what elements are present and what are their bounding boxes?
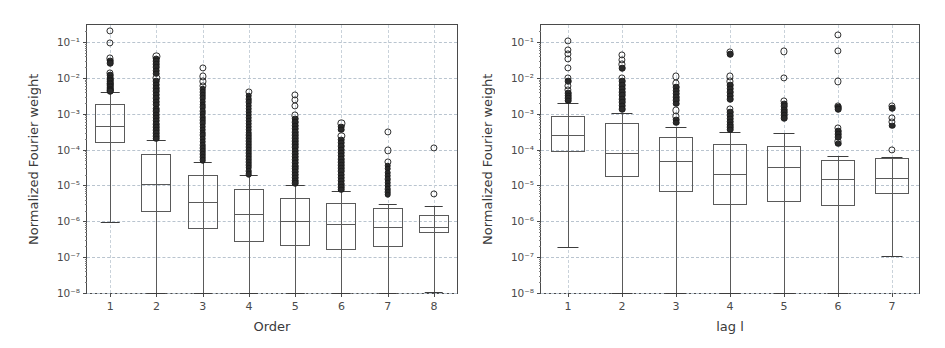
y-tick-minor	[85, 265, 88, 266]
y-tick-minor	[539, 139, 542, 140]
boxplot-box	[875, 158, 909, 194]
y-tick-minor	[85, 151, 88, 152]
boxplot-median	[821, 179, 855, 180]
y-tick-label: 10⁻⁷	[57, 252, 80, 263]
y-tick-minor	[85, 115, 88, 116]
boxplot-median	[234, 214, 264, 215]
y-tick-minor	[539, 128, 542, 129]
boxplot-outlier	[619, 106, 626, 113]
y-tick-minor	[539, 81, 542, 82]
y-tick-label: 10⁻⁶	[57, 216, 80, 227]
y-tick-minor	[539, 211, 542, 212]
boxplot-outlier	[834, 78, 841, 85]
y-tick-minor	[539, 61, 542, 62]
y-tick-minor	[539, 259, 542, 260]
y-tick-minor	[85, 225, 88, 226]
x-tick-label: 6	[835, 301, 842, 312]
gridline-horizontal	[87, 150, 457, 151]
y-tick-minor	[539, 97, 542, 98]
boxplot-cap-lower	[286, 293, 305, 294]
boxplot-outlier	[107, 39, 114, 46]
boxplot-outlier	[780, 48, 787, 55]
y-tick-minor	[85, 240, 88, 241]
y-tick-minor	[539, 46, 542, 47]
y-tick-minor	[539, 164, 542, 165]
x-tick-label: 2	[619, 301, 626, 312]
y-tick-minor	[539, 44, 542, 45]
plot-area-right: lag l 10⁻¹10⁻²10⁻³10⁻⁴10⁻⁵10⁻⁶10⁻⁷10⁻⁸12…	[540, 24, 920, 294]
boxplot-cap-lower	[665, 293, 686, 294]
boxplot-cap-upper	[611, 113, 632, 114]
y-tick-label: 10⁻¹	[511, 37, 534, 48]
y-tick-minor	[85, 229, 88, 230]
boxplot-cap-lower	[773, 293, 794, 294]
x-tick-label: 6	[338, 301, 345, 312]
y-tick-label: 10⁻⁴	[511, 144, 534, 155]
y-tick-minor	[539, 155, 542, 156]
boxplot-outlier	[246, 171, 253, 178]
y-tick-minor	[85, 164, 88, 165]
y-tick-minor	[539, 153, 542, 154]
y-tick-minor	[85, 83, 88, 84]
x-tick-label: 1	[107, 301, 114, 312]
x-tick-mark	[892, 293, 893, 297]
x-axis-label-left: Order	[254, 319, 291, 334]
y-tick-minor	[539, 158, 542, 159]
y-tick-minor	[85, 196, 88, 197]
boxplot-outlier	[835, 141, 842, 148]
y-tick-minor	[85, 56, 88, 57]
boxplot-outlier	[199, 157, 206, 164]
y-tick-minor	[539, 67, 542, 68]
boxplot-median	[373, 227, 403, 228]
y-tick-label: 10⁻⁸	[57, 288, 80, 299]
boxplot-outlier	[384, 128, 391, 135]
y-tick-minor	[85, 53, 88, 54]
boxplot-cap-lower	[557, 247, 578, 248]
y-tick-minor	[85, 263, 88, 264]
boxplot-outlier	[565, 98, 572, 105]
boxplot-outlier	[153, 136, 160, 143]
y-tick-minor	[85, 44, 88, 45]
boxplot-cap-lower	[147, 293, 166, 294]
boxplot-cap-upper	[827, 156, 848, 157]
y-tick-minor	[85, 232, 88, 233]
boxplot-box	[821, 160, 855, 207]
y-tick-minor	[85, 155, 88, 156]
y-tick-minor	[539, 103, 542, 104]
boxplot-box	[234, 189, 264, 241]
boxplot-outlier	[834, 48, 841, 55]
y-tick-minor	[539, 189, 542, 190]
y-tick-minor	[539, 282, 542, 283]
y-tick-minor	[539, 191, 542, 192]
y-tick-label: 10⁻⁵	[57, 180, 80, 191]
y-tick-minor	[85, 81, 88, 82]
boxplot-outlier	[564, 55, 571, 62]
y-tick-minor	[85, 160, 88, 161]
y-tick-minor	[85, 276, 88, 277]
y-tick-minor	[85, 193, 88, 194]
x-tick-label: 1	[565, 301, 572, 312]
y-tick-minor	[539, 223, 542, 224]
boxplot-cap-upper	[378, 204, 397, 205]
y-tick-minor	[85, 125, 88, 126]
boxplot-outlier	[564, 37, 571, 44]
y-tick-minor	[85, 89, 88, 90]
y-tick-minor	[539, 119, 542, 120]
y-tick-minor	[85, 204, 88, 205]
y-tick-label: 10⁻²	[511, 73, 534, 84]
gridline-horizontal	[87, 78, 457, 79]
boxplot-outlier	[107, 88, 114, 95]
boxplot-median	[875, 178, 909, 179]
boxplot-outlier	[292, 102, 299, 109]
boxplot-median	[188, 202, 218, 203]
boxplot-cap-lower	[332, 293, 351, 294]
boxplot-cap-lower	[193, 293, 212, 294]
x-tick-label: 7	[889, 301, 896, 312]
y-tick-minor	[85, 153, 88, 154]
y-tick-minor	[539, 175, 542, 176]
y-tick-label: 10⁻⁶	[511, 216, 534, 227]
y-tick-minor	[539, 133, 542, 134]
y-tick-minor	[539, 246, 542, 247]
y-tick-minor	[85, 223, 88, 224]
boxplot-cap-lower	[881, 256, 902, 257]
